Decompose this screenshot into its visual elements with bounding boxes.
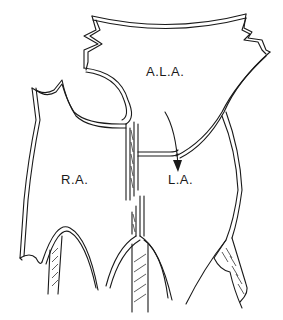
- center-valve: [106, 236, 172, 312]
- arrowhead-icon: [173, 160, 182, 172]
- flow-arrow: [165, 112, 182, 172]
- label-left-atrium: L.A.: [168, 172, 193, 187]
- label-accessory-left-atrium: A.L.A.: [146, 64, 184, 79]
- accessory-left-atrium-outline: [84, 14, 270, 158]
- diagram-canvas: [0, 0, 283, 320]
- left-atrium-outline: [186, 112, 242, 304]
- tricuspid-valve: [42, 227, 98, 294]
- label-right-atrium: R.A.: [61, 172, 88, 187]
